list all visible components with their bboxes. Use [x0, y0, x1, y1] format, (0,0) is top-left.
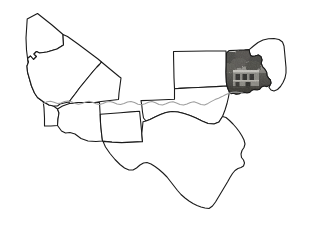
state-arizona[interactable] — [58, 103, 103, 142]
map-canvas — [0, 0, 313, 225]
map-figure: Outline map of south-western and central… — [0, 0, 313, 225]
state-outlines — [26, 14, 286, 209]
state-kansas[interactable] — [174, 51, 228, 89]
